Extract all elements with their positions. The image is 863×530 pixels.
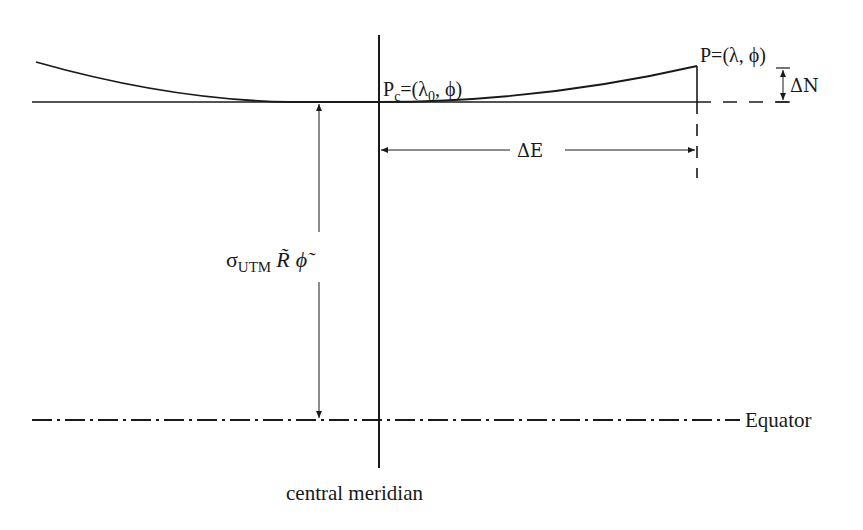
delta-n-label: ΔN [790,75,819,96]
equator-label: Equator [745,408,811,432]
curved-parallel [36,62,697,102]
northing-formula-label: σUTMR̃ϕ̃ [226,247,316,275]
central-meridian-label: central meridian [286,481,424,505]
p-label: P=(λ, ϕ) [700,44,766,67]
utm-diagram: Pc=(λ0, ϕ) P=(λ, ϕ) ΔN ΔE σUTMR̃ϕ̃ Equat… [0,0,863,530]
delta-e-label: ΔE [517,140,543,161]
